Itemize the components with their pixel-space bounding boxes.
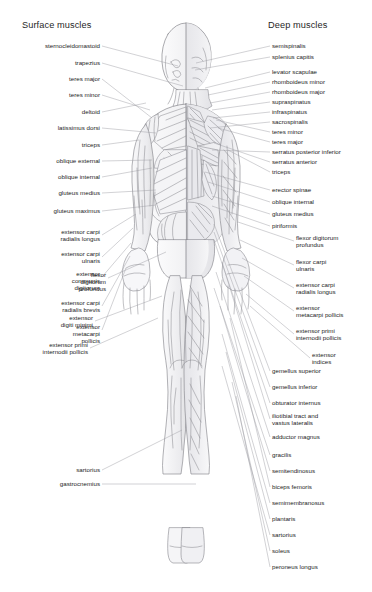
label-deep-26: iliotibial tract andvastus lateralis bbox=[272, 412, 318, 426]
label-deep-0: semispinalis bbox=[272, 42, 306, 49]
label-surface-9: gluteus medius bbox=[58, 189, 100, 196]
label-deep-24: gemellus inferior bbox=[272, 383, 317, 390]
label-surface-12: extensor carpiulnaris bbox=[61, 250, 100, 264]
leader-line bbox=[210, 92, 270, 103]
label-deep-29: semitendinosus bbox=[272, 467, 315, 474]
label-deep-20: extensormetacarpi pollicis bbox=[296, 304, 343, 318]
label-deep-10: serratus posterior inferior bbox=[272, 148, 341, 155]
leader-line bbox=[102, 103, 146, 112]
leader-line bbox=[95, 296, 162, 321]
label-deep-21: extensor primiinternodii pollicis bbox=[296, 327, 341, 341]
label-deep-33: sartorius bbox=[272, 531, 296, 538]
label-deep-35: peroneus longus bbox=[272, 563, 318, 570]
label-deep-31: semimembranosus bbox=[272, 499, 324, 506]
label-deep-28: gracilis bbox=[272, 451, 291, 458]
heading-surface-muscles: Surface muscles bbox=[22, 20, 91, 30]
label-surface-0: sternocleidomastoid bbox=[45, 42, 100, 49]
label-surface-14: extensor carpiradialis brevis bbox=[61, 299, 100, 313]
label-deep-4: rhomboideus major bbox=[272, 88, 325, 95]
label-deep-34: soleus bbox=[272, 547, 290, 554]
label-deep-23: gemellus superior bbox=[272, 367, 321, 374]
label-deep-2: levator scapulae bbox=[272, 68, 317, 75]
leader-line bbox=[90, 318, 158, 348]
label-center-0: flexordigitorumprofundus bbox=[78, 271, 106, 292]
label-surface-16: sartorius bbox=[76, 466, 100, 473]
leader-line bbox=[216, 272, 270, 437]
label-surface-10: gluteus maximus bbox=[54, 207, 100, 214]
leader-line bbox=[222, 334, 270, 503]
leader-line bbox=[246, 294, 294, 334]
label-deep-14: oblique internal bbox=[272, 198, 314, 205]
leader-line bbox=[212, 102, 270, 110]
label-surface-6: triceps bbox=[82, 141, 100, 148]
anatomy-figure-container: Surface muscles Deep muscles sternocleid… bbox=[0, 0, 372, 592]
label-surface-17: gastrocnemius bbox=[60, 480, 100, 487]
leader-line bbox=[102, 140, 139, 145]
label-deep-27: adductor magnus bbox=[272, 433, 320, 440]
label-deep-22: extensorindices bbox=[312, 351, 336, 365]
label-deep-8: teres minor bbox=[272, 128, 303, 135]
label-deep-25: obturator internus bbox=[272, 399, 321, 406]
label-deep-16: piriformis bbox=[272, 222, 297, 229]
label-deep-13: erector spinae bbox=[272, 186, 311, 193]
label-deep-7: sacrospinalis bbox=[272, 118, 308, 125]
leader-line bbox=[214, 224, 270, 371]
label-center-2: extensor primiinternodii pollicis bbox=[43, 341, 88, 355]
label-surface-7: oblique external bbox=[56, 157, 100, 164]
heading-deep-muscles: Deep muscles bbox=[268, 20, 327, 30]
label-deep-6: infraspinatus bbox=[272, 108, 307, 115]
label-deep-30: biceps femoris bbox=[272, 483, 312, 490]
label-surface-11: extensor carpiradialis longus bbox=[60, 228, 100, 242]
leader-line bbox=[102, 214, 136, 235]
label-surface-4: deltoid bbox=[82, 108, 100, 115]
label-deep-11: serratus anterior bbox=[272, 158, 317, 165]
label-deep-18: flexor carpiulnaris bbox=[296, 258, 326, 272]
label-deep-12: triceps bbox=[272, 168, 290, 175]
label-deep-17: flexor digitorumprofundus bbox=[296, 234, 338, 248]
leader-line bbox=[102, 95, 150, 110]
label-surface-3: teres minor bbox=[69, 91, 100, 98]
label-deep-32: plantaris bbox=[272, 515, 295, 522]
label-surface-2: teres major bbox=[69, 75, 100, 82]
label-center-1: extensordigiti minimi bbox=[61, 314, 93, 328]
label-deep-19: extensor carpiradialis longus bbox=[296, 281, 336, 295]
leader-line bbox=[102, 79, 152, 118]
label-surface-5: latissimus dorsi bbox=[58, 124, 100, 131]
leader-line bbox=[205, 72, 270, 88]
label-deep-3: rhomboideus minor bbox=[272, 78, 325, 85]
label-deep-5: supraspinatus bbox=[272, 98, 311, 105]
leader-line bbox=[214, 288, 270, 455]
leader-line bbox=[244, 276, 294, 311]
leader-line bbox=[240, 240, 294, 265]
label-deep-9: teres major bbox=[272, 138, 303, 145]
leader-line bbox=[208, 82, 270, 95]
label-deep-15: gluteus medius bbox=[272, 210, 314, 217]
label-surface-1: trapezius bbox=[75, 59, 100, 66]
label-deep-1: splenius capitis bbox=[272, 53, 314, 60]
leader-line bbox=[213, 112, 270, 118]
label-surface-8: oblique internal bbox=[58, 173, 100, 180]
